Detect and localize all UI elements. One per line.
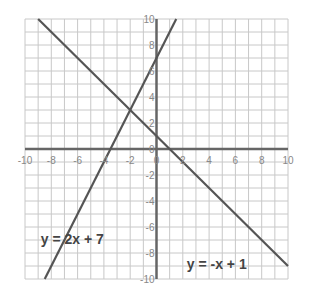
y-tick-label: 10 <box>143 14 155 25</box>
equation-label: y = 2x + 7 <box>41 231 104 247</box>
y-tick-label: 8 <box>149 40 155 51</box>
y-tick-label: -6 <box>146 222 155 233</box>
series-line <box>38 19 288 266</box>
x-tick-label: 0 <box>154 155 160 166</box>
x-tick-label: 10 <box>282 155 294 166</box>
y-tick-label: -4 <box>146 196 155 207</box>
x-tick-label: 6 <box>233 155 239 166</box>
y-tick-label: 4 <box>149 92 155 103</box>
y-tick-label: 2 <box>149 118 155 129</box>
equation-label: y = -x + 1 <box>187 256 247 272</box>
y-tick-label: -8 <box>146 248 155 259</box>
y-tick-label: -2 <box>146 170 155 181</box>
x-tick-label: -6 <box>73 155 82 166</box>
line-chart: -10-8-6-4-20246810108642-2-4-6-8-100 y =… <box>0 0 310 297</box>
x-tick-label: -8 <box>47 155 56 166</box>
x-tick-label: 8 <box>259 155 265 166</box>
x-tick-label: 4 <box>206 155 212 166</box>
y-tick-label: 6 <box>149 66 155 77</box>
origin-tick-label: 0 <box>149 144 155 155</box>
x-tick-label: -4 <box>99 155 108 166</box>
y-tick-label: -10 <box>140 274 155 285</box>
x-tick-label: -2 <box>126 155 135 166</box>
x-tick-label: 2 <box>180 155 186 166</box>
x-tick-label: -10 <box>18 155 33 166</box>
